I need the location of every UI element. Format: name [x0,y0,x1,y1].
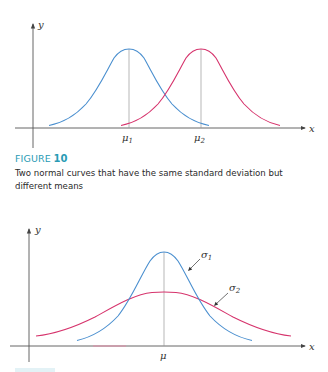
figure-word: FIGURE [15,153,51,164]
top-y-axis-label: y [37,19,44,30]
blue-normal-curve-narrow [77,252,252,341]
mu1-label: μ1 [122,132,133,145]
bottom-x-axis-label: x [309,341,315,352]
sigma2-annotation: σ2 [214,282,241,306]
sigma1-arrow [190,259,200,269]
sigma2-arrow [216,293,228,304]
figure-bottom: x y σ1 σ2 μ [10,224,315,362]
figure-caption: FIGURE 10 Two normal curves that have th… [15,152,320,193]
top-x-axis-label: x [309,123,315,134]
figure-top: x y μ1 μ2 [15,19,315,148]
sigma1-label: σ1 [201,249,212,262]
pink-normal-curve-wide [36,292,291,336]
sigma1-annotation: σ1 [188,249,212,271]
sigma2-label: σ2 [229,282,241,295]
caption-text: Two normal curves that have the same sta… [15,167,320,193]
next-caption-cutoff [15,368,55,372]
figure-number: 10 [54,153,68,164]
mu-label: μ [160,350,167,361]
bottom-y-axis-label: y [34,224,41,235]
mu2-label: μ2 [194,132,206,145]
